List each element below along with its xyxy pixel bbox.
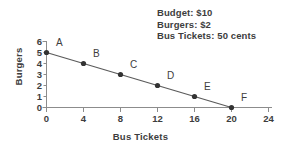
data-point-e — [192, 94, 197, 99]
point-label-d: D — [167, 70, 174, 81]
y-tick-label-2: 2 — [30, 80, 42, 91]
y-tick-label-6: 6 — [30, 36, 42, 47]
y-axis-title: Burgers — [13, 37, 24, 97]
annotation-budget: Budget: $10 — [157, 7, 256, 19]
y-tick-label-1: 1 — [30, 91, 42, 102]
x-tick-label-12: 12 — [149, 113, 167, 124]
y-tick-label-3: 3 — [30, 69, 42, 80]
x-tick-label-16: 16 — [186, 113, 204, 124]
axes — [47, 41, 273, 108]
x-tick-label-20: 20 — [223, 113, 241, 124]
point-label-a: A — [56, 37, 63, 48]
x-tick-label-0: 0 — [38, 113, 56, 124]
point-label-f: F — [241, 92, 247, 103]
chart-annotation-block: Budget: $10 Burgers: $2 Bus Tickets: 50 … — [157, 7, 256, 42]
data-point-f — [229, 105, 234, 110]
budget-constraint-chart: 6 5 4 3 2 1 0 0 4 8 12 16 20 24 A B C D … — [0, 0, 281, 149]
x-tick-label-4: 4 — [75, 113, 93, 124]
x-axis-title: Bus Tickets — [0, 131, 281, 142]
x-axis-ticks — [47, 108, 269, 113]
annotation-bus-tickets: Bus Tickets: 50 cents — [157, 30, 256, 42]
data-point-c — [118, 72, 123, 77]
budget-constraint-line — [47, 53, 232, 108]
y-tick-label-4: 4 — [30, 58, 42, 69]
point-label-b: B — [93, 48, 100, 59]
data-point-b — [81, 61, 86, 66]
x-tick-label-24: 24 — [260, 113, 278, 124]
data-point-a — [44, 50, 49, 55]
annotation-burgers: Burgers: $2 — [157, 19, 256, 31]
point-label-e: E — [204, 81, 211, 92]
data-point-d — [155, 83, 160, 88]
y-tick-label-0: 0 — [30, 102, 42, 113]
y-tick-label-5: 5 — [30, 47, 42, 58]
x-tick-label-8: 8 — [112, 113, 130, 124]
point-label-c: C — [130, 59, 137, 70]
